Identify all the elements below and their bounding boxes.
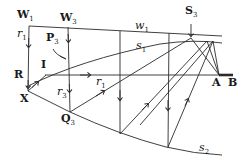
label-I: I [41, 59, 46, 70]
ray-up-3 [168, 41, 213, 147]
label-W3: W3 [60, 12, 77, 23]
label-R: R [14, 69, 23, 80]
label-S3: S3 [185, 5, 197, 16]
label-A: A [212, 77, 221, 88]
label-w1: w1 [135, 20, 149, 31]
arrow-up-2 [142, 104, 148, 110]
label-s2: s2 [199, 142, 209, 153]
ray-to-A-3 [213, 41, 219, 75]
pointer-P3-head [60, 56, 66, 59]
label-r1-mid: r1 [96, 76, 106, 87]
label-X: X [20, 93, 29, 104]
label-B: B [228, 77, 237, 88]
pointer-P3 [53, 49, 66, 59]
label-Q3: Q3 [61, 113, 75, 124]
label-s1: s1 [136, 40, 146, 51]
arrow-Q3-up [96, 91, 104, 96]
ray-cross-1 [140, 41, 213, 125]
label-W1: W1 [17, 9, 34, 20]
arrow-up-3 [185, 99, 188, 106]
curve-s2 [28, 91, 222, 155]
label-P3: P3 [46, 32, 59, 43]
ray-vertical-3 [168, 33, 169, 147]
label-r1-left: r1 [17, 28, 27, 39]
label-r3: r3 [57, 86, 67, 97]
ray-diagram [0, 0, 247, 164]
